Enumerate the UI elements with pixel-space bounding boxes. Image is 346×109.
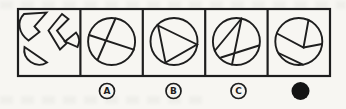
answer-row: A B C [100,82,310,100]
selected-answer-dot[interactable] [292,82,310,100]
puzzle-figure-svg: A B C [0,0,346,109]
puzzle-item: A B C [0,0,346,109]
option-c-figure [213,18,260,65]
option-b-figure [151,18,198,65]
option-b-badge[interactable]: B [166,84,181,99]
option-b-label: B [170,86,177,96]
option-a-badge[interactable]: A [100,84,115,99]
question-figure [19,13,78,65]
option-d-figure [275,18,322,65]
option-c-label: C [235,86,242,96]
option-c-badge[interactable]: C [231,84,246,99]
option-a-label: A [104,86,111,96]
option-a-figure [88,18,135,65]
